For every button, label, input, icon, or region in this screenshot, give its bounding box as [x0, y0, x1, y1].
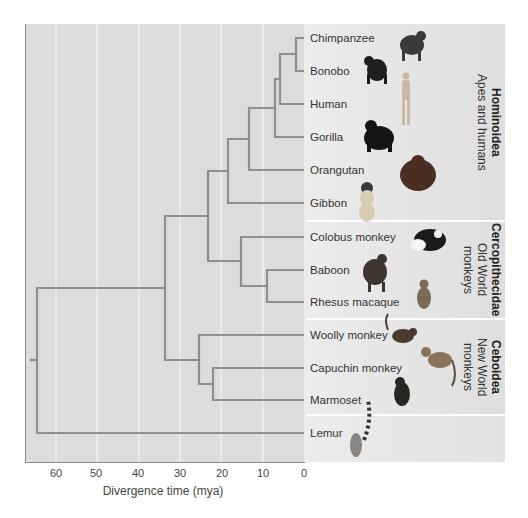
x-tick-60: 60 [50, 467, 62, 479]
leaf-label-baboon: Baboon [310, 263, 350, 277]
x-tick-50: 50 [90, 467, 102, 479]
leaf-label-rhesus-macaque: Rhesus macaque [310, 295, 400, 309]
leaf-label-woolly-monkey: Woolly monkey [310, 328, 388, 342]
x-tick-30: 30 [174, 467, 186, 479]
leaf-label-human: Human [310, 97, 347, 111]
phylogenetic-tree [0, 0, 528, 518]
x-tick-10: 10 [257, 467, 269, 479]
leaf-label-chimpanzee: Chimpanzee [310, 31, 375, 45]
leaf-label-capuchin-monkey: Capuchin monkey [310, 361, 402, 375]
leaf-label-colobus-monkey: Colobus monkey [310, 230, 396, 244]
leaf-label-gibbon: Gibbon [310, 196, 347, 210]
x-tick-20: 20 [216, 467, 228, 479]
x-tick-0: 0 [301, 467, 307, 479]
leaf-label-bonobo: Bonobo [310, 64, 350, 78]
x-tick-40: 40 [132, 467, 144, 479]
primate-phylogeny-figure: Hominoidea Apes and humans Cercopithecid… [0, 0, 528, 518]
grid-lines [56, 24, 263, 462]
x-axis-label: Divergence time (mya) [23, 484, 303, 498]
leaf-label-marmoset: Marmoset [310, 393, 361, 407]
leaf-label-orangutan: Orangutan [310, 163, 364, 177]
leaf-label-lemur: Lemur [310, 426, 343, 440]
leaf-label-gorilla: Gorilla [310, 130, 343, 144]
